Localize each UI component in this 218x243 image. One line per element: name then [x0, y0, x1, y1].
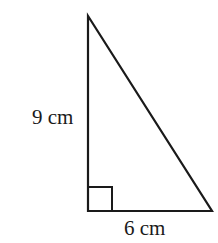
right-triangle [88, 16, 212, 211]
vertical-leg-label: 9 cm [32, 105, 73, 129]
horizontal-leg-label: 6 cm [124, 216, 165, 240]
right-angle-marker [88, 187, 112, 211]
triangle-diagram: 9 cm 6 cm [0, 0, 218, 243]
